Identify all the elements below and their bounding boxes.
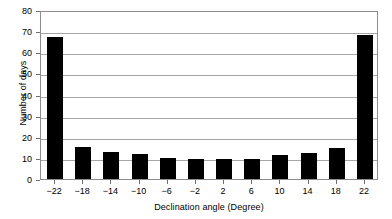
y-axis-tick	[36, 159, 40, 160]
bar	[132, 154, 148, 179]
x-axis-tick-label: 22	[344, 186, 384, 197]
x-axis-tick	[223, 180, 224, 184]
y-axis-tick-label: 70	[22, 28, 32, 37]
bar	[75, 147, 91, 179]
bar-series	[41, 12, 377, 179]
y-axis-tick-label: 40	[22, 92, 32, 101]
y-axis-tick-label: 20	[22, 134, 32, 143]
bar	[103, 152, 119, 179]
bar	[216, 159, 232, 179]
bar-chart: Number of days 01020304050607080 −22−18−…	[0, 0, 392, 219]
y-axis-tick	[36, 180, 40, 181]
x-axis-ticks	[40, 180, 378, 185]
bar	[188, 159, 204, 179]
x-axis-tick	[110, 180, 111, 184]
y-axis-tick	[36, 32, 40, 33]
x-axis-tick	[167, 180, 168, 184]
bar	[47, 37, 63, 179]
y-axis-tick	[36, 138, 40, 139]
x-axis-tick	[251, 180, 252, 184]
bar	[160, 158, 176, 179]
y-axis-tick-labels: 01020304050607080	[0, 0, 36, 219]
plot-area	[40, 11, 378, 180]
y-axis-tick-label: 60	[22, 49, 32, 58]
x-axis-tick	[82, 180, 83, 184]
x-axis-tick	[195, 180, 196, 184]
x-axis-tick	[54, 180, 55, 184]
x-axis-tick	[308, 180, 309, 184]
y-axis-tick	[36, 53, 40, 54]
y-axis-tick-label: 0	[27, 176, 32, 185]
y-axis-tick	[36, 117, 40, 118]
y-axis-tick-label: 80	[22, 7, 32, 16]
x-axis-title: Declination angle (Degree)	[40, 202, 378, 213]
x-axis-tick	[139, 180, 140, 184]
y-axis-tick	[36, 11, 40, 12]
bar	[301, 153, 317, 179]
x-axis-tick	[336, 180, 337, 184]
y-axis-tick	[36, 96, 40, 97]
y-axis-tick-label: 30	[22, 113, 32, 122]
bar	[244, 159, 260, 179]
bar	[272, 155, 288, 179]
x-axis-tick	[364, 180, 365, 184]
bar	[357, 35, 373, 179]
x-axis-tick	[279, 180, 280, 184]
x-axis-tick-labels: −22−18−14−10−6−22610141822	[40, 186, 378, 200]
y-axis-tick	[36, 74, 40, 75]
y-axis-tick-label: 50	[22, 70, 32, 79]
y-axis-tick-label: 10	[22, 155, 32, 164]
bar	[329, 148, 345, 179]
